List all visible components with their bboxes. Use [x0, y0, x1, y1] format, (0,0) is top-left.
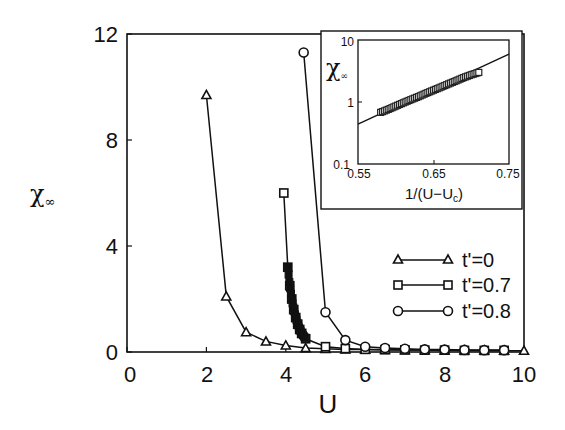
legend-item-t07: t'=0.7	[394, 274, 511, 296]
circle-marker-icon	[361, 342, 370, 351]
x-axis-label: U	[319, 389, 338, 419]
circle-marker-icon	[321, 308, 330, 317]
x-tick-4: 4	[280, 362, 292, 387]
inset-chart: 10 1 0.1 0.55 0.65 0.75 1/(U−Uc) χ∞	[321, 31, 522, 209]
circle-marker-icon	[400, 344, 409, 353]
triangle-marker-icon	[242, 328, 251, 336]
square-marker-icon	[341, 345, 349, 353]
legend-label-t08: t'=0.8	[462, 300, 511, 322]
series-1	[280, 189, 508, 355]
y-tick-12: 12	[94, 22, 118, 47]
legend: t'=0 t'=0.7 t'=0.8	[394, 249, 511, 322]
x-tick-10: 10	[512, 362, 536, 387]
circle-marker-icon	[500, 346, 509, 355]
y-tick-0: 0	[106, 340, 118, 365]
square-marker-icon	[321, 343, 329, 351]
y-axis-label: χ∞	[30, 180, 55, 209]
circle-marker-icon	[440, 345, 449, 354]
inset-x-tick-0.75: 0.75	[496, 167, 520, 181]
square-marker-icon	[444, 281, 452, 289]
legend-label-t07: t'=0.7	[462, 274, 511, 296]
triangle-marker-icon	[222, 292, 231, 300]
square-marker-icon	[280, 189, 288, 197]
circle-marker-icon	[341, 336, 350, 345]
chart-figure: 0 4 8 12 0 2 4 6 8 10 U χ∞ t'=0 t'=0.7 t…	[0, 0, 565, 430]
x-tick-6: 6	[359, 362, 371, 387]
square-marker-icon	[394, 281, 402, 289]
legend-item-t08: t'=0.8	[394, 300, 511, 322]
y-tick-8: 8	[106, 128, 118, 153]
legend-label-t0: t'=0	[462, 249, 494, 271]
circle-marker-icon	[299, 48, 308, 57]
x-tick-2: 2	[201, 362, 213, 387]
triangle-marker-icon	[301, 344, 310, 352]
triangle-marker-icon	[394, 255, 403, 263]
inset-y-tick-1: 1	[347, 96, 354, 110]
circle-marker-icon	[460, 345, 469, 354]
circle-marker-icon	[420, 345, 429, 354]
legend-item-t0: t'=0	[394, 249, 495, 271]
triangle-marker-icon	[444, 255, 453, 263]
y-tick-4: 4	[106, 234, 118, 259]
triangle-marker-icon	[202, 90, 211, 98]
triangle-marker-icon	[281, 341, 290, 349]
circle-marker-icon	[394, 307, 403, 316]
dense-cluster	[284, 264, 308, 342]
x-tick-0: 0	[124, 362, 136, 387]
inset-y-tick-10: 10	[341, 35, 355, 49]
circle-marker-icon	[480, 346, 489, 355]
circle-marker-icon	[444, 307, 453, 316]
x-tick-8: 8	[439, 362, 451, 387]
inset-x-tick-0.55: 0.55	[347, 167, 371, 181]
triangle-marker-icon	[520, 346, 529, 354]
triangle-marker-icon	[261, 337, 270, 345]
circle-marker-icon	[381, 344, 390, 353]
inset-outer-frame	[321, 31, 522, 209]
inset-x-tick-0.65: 0.65	[422, 167, 446, 181]
